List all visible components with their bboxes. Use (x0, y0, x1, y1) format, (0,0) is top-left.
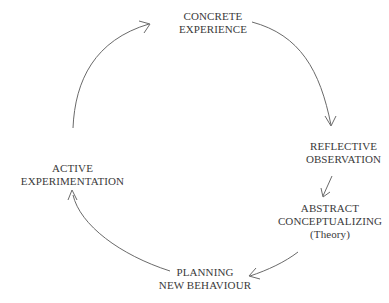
node-label-line: OBSERVATION (296, 153, 389, 166)
arrow-active-to-concrete (73, 24, 149, 128)
node-label-line: ABSTRACT (270, 202, 389, 215)
node-label-line: PLANNING (150, 266, 260, 279)
node-label-line: REFLECTIVE (296, 140, 389, 153)
node-abstract-conceptualizing: ABSTRACT CONCEPTUALIZING (Theory) (270, 202, 389, 241)
arrow-reflective-to-abstract (323, 176, 332, 196)
node-label-line: (Theory) (270, 228, 389, 241)
node-label-line: ACTIVE (10, 162, 135, 175)
arrow-planning-to-active (73, 195, 170, 271)
node-label-line: CONCRETE (158, 10, 268, 23)
node-label-line: CONCEPTUALIZING (270, 215, 389, 228)
node-concrete-experience: CONCRETE EXPERIENCE (158, 10, 268, 36)
node-label-line: NEW BEHAVIOUR (150, 279, 260, 292)
node-reflective-observation: REFLECTIVE OBSERVATION (296, 140, 389, 166)
arrow-concrete-to-reflective (252, 22, 331, 125)
learning-cycle-diagram: CONCRETE EXPERIENCE REFLECTIVE OBSERVATI… (0, 0, 389, 303)
node-label-line: EXPERIMENTATION (10, 175, 135, 188)
node-label-line: EXPERIENCE (158, 23, 268, 36)
arrowhead-icon (68, 190, 77, 200)
node-planning-new-behaviour: PLANNING NEW BEHAVIOUR (150, 266, 260, 292)
node-active-experimentation: ACTIVE EXPERIMENTATION (10, 162, 135, 188)
